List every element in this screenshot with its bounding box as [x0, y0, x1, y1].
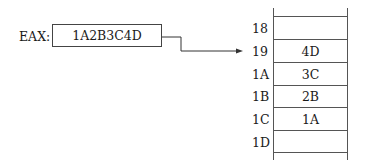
- memory-cell: 3C: [274, 67, 347, 82]
- memory-address: 1D: [252, 135, 282, 150]
- memory-cell: 2B: [274, 89, 347, 104]
- memory-divider: [273, 152, 348, 153]
- memory-divider: [273, 39, 348, 40]
- memory-divider: [273, 62, 348, 63]
- memory-divider: [273, 16, 348, 17]
- memory-divider: [273, 85, 348, 86]
- memory-address: 18: [252, 21, 282, 36]
- memory-cell: 1A: [274, 112, 347, 127]
- memory-divider: [273, 107, 348, 108]
- memory-right-border: [347, 8, 348, 160]
- memory-cell: 4D: [274, 44, 347, 59]
- pointer-arrow-icon: [0, 0, 367, 167]
- memory-divider: [273, 130, 348, 131]
